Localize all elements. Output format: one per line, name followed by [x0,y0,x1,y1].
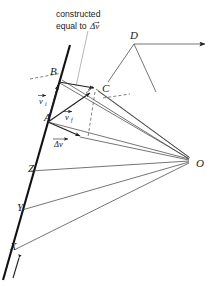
caption-line-2-prefix: equal to [56,21,89,31]
vector-label-vi: v i [38,96,47,108]
point-label-Z: Z [28,162,35,174]
vector-label-vi-symbol: v [39,96,43,106]
vector-label-vf-symbol: v [65,112,69,122]
caption-symbol-vector-bar: → [92,16,101,26]
vector-label-delta-v: Δv [53,139,68,149]
point-label-A: A [43,111,51,123]
vector-label-delta-v-symbol: Δv [53,139,63,149]
node-D-construction [108,44,205,92]
diagram-canvas: constructed equal to Δv→ A B C D O X Y Z… [0,0,210,286]
caption-block: constructed equal to Δv→ [56,9,101,31]
vector-diagram-figure: constructed equal to Δv→ A B C D O X Y Z… [0,0,210,286]
trajectory-direction-arrow [13,258,19,278]
point-label-X: X [9,240,18,252]
point-label-D: D [129,29,138,41]
point-labels: A B C D O X Y Z [9,29,204,252]
point-label-B: B [50,65,57,77]
tangent-dash-at-B [30,73,62,79]
vector-label-vf-subscript: f [71,117,74,123]
vector-label-vf: v f [64,112,74,124]
vector-label-vi-subscript: i [45,101,47,107]
caption-leader-line [76,31,88,86]
point-label-O: O [196,157,204,169]
point-label-C: C [102,82,110,94]
